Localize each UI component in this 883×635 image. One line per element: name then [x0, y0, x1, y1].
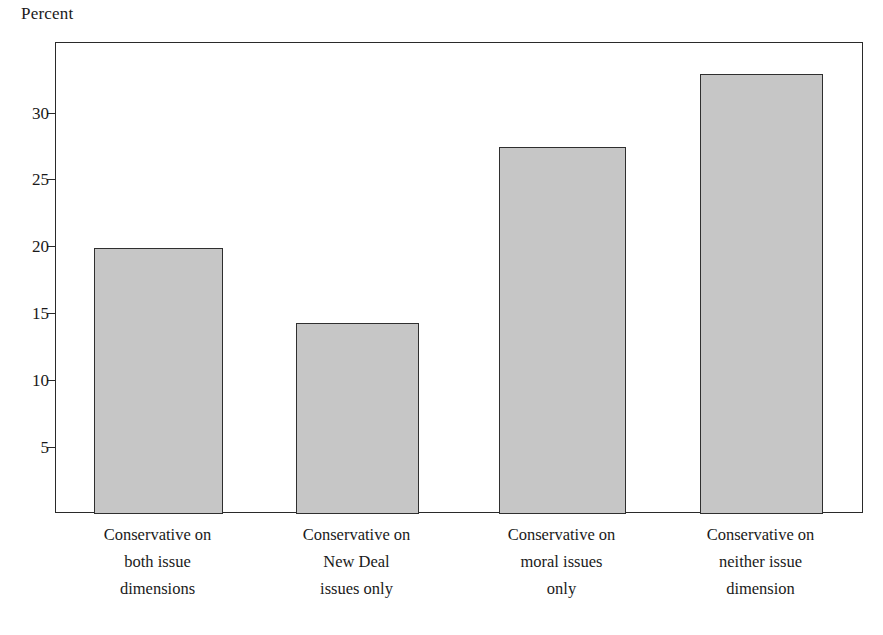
y-axis-tick-label: 5	[41, 439, 50, 456]
bar	[94, 248, 223, 514]
x-axis-category-label: Conservative onneither issuedimension	[641, 521, 881, 602]
x-axis-category-label: Conservative onNew Dealissues only	[237, 521, 477, 602]
plot-area: 51015202530	[56, 43, 862, 512]
y-axis-tick-label: 20	[32, 238, 49, 255]
y-axis-tick-label: 15	[32, 305, 49, 322]
bar	[499, 147, 626, 514]
plot-frame: 51015202530	[55, 42, 863, 513]
x-axis-category-label-line: issues only	[237, 575, 477, 602]
x-axis-category-label-line: dimension	[641, 575, 881, 602]
x-axis-category-label-line: Conservative on	[237, 521, 477, 548]
y-axis-tick-label: 10	[32, 372, 49, 389]
y-axis-tick-label: 25	[32, 171, 49, 188]
x-axis-category-label-line: neither issue	[641, 548, 881, 575]
x-axis-category-label-line: New Deal	[237, 548, 477, 575]
y-axis-tick-label: 30	[32, 104, 49, 121]
bar	[700, 74, 823, 514]
x-axis-category-label-line: Conservative on	[641, 521, 881, 548]
bar-chart-figure: Percent 51015202530 Conservative onboth …	[0, 0, 883, 635]
y-axis-title: Percent	[21, 4, 73, 24]
bar	[296, 323, 419, 514]
